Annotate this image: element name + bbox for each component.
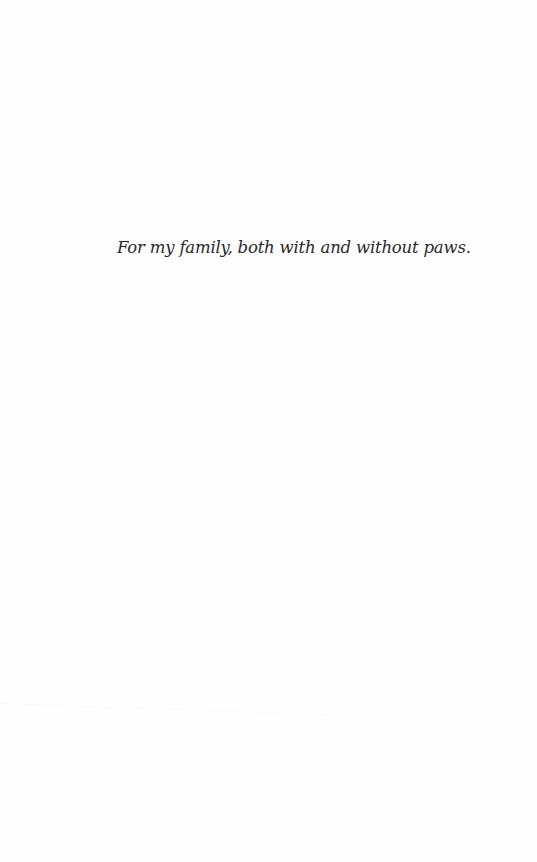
book-page: For my family, both with and without paw… — [0, 0, 537, 862]
scan-line-artifact — [0, 703, 537, 722]
dedication-text: For my family, both with and without paw… — [117, 236, 417, 260]
